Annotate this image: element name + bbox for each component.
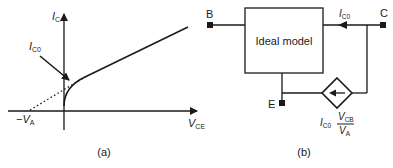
source-denominator: VA <box>339 125 351 137</box>
emitter-label: E <box>268 98 275 110</box>
ic0-current-arrow <box>338 21 347 29</box>
source-expression: IC0 VCB VA <box>320 111 354 137</box>
ic-vce-curve <box>64 27 188 106</box>
collector-terminal <box>380 22 386 28</box>
emitter-terminal <box>279 100 285 106</box>
source-prefix: IC0 <box>320 117 331 129</box>
panel-b-caption: (b) <box>297 146 310 158</box>
panel-b-circuit-model: Ideal model B C IC0 E IC0 VCB VA (b) <box>206 7 388 158</box>
base-label: B <box>206 8 213 20</box>
collector-label: C <box>380 7 388 19</box>
early-voltage-label: −VA <box>16 113 35 126</box>
ic0-annotation-label: IC0 <box>29 40 41 53</box>
panel-a-characteristic: IC VCE −VA IC0 (a) <box>8 10 205 158</box>
ic0-current-label: IC0 <box>339 8 350 20</box>
source-numerator: VCB <box>338 111 354 123</box>
panel-a-caption: (a) <box>97 146 110 158</box>
y-axis-label: IC <box>52 10 60 23</box>
base-terminal <box>207 22 213 28</box>
diagram-canvas: IC VCE −VA IC0 (a) Ideal model B C IC0 E… <box>0 0 393 168</box>
x-axis-label: VCE <box>188 117 205 130</box>
ideal-model-label: Ideal model <box>256 35 313 47</box>
